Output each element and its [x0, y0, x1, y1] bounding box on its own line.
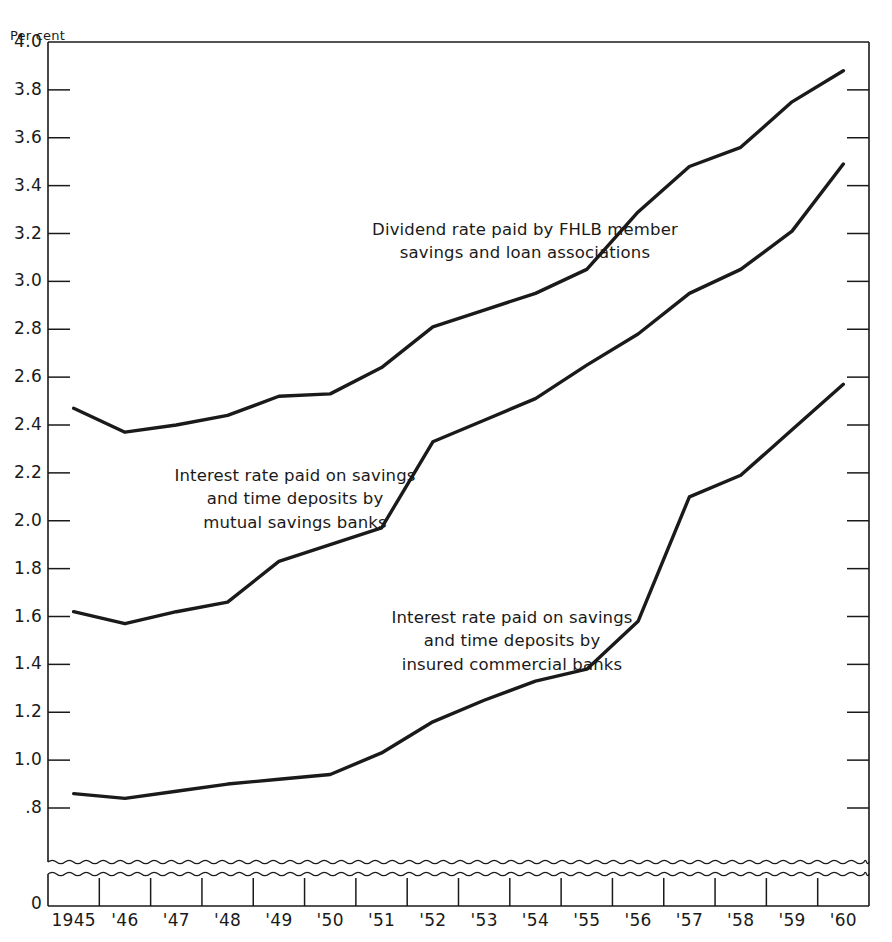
annotation-line: and time deposits by	[95, 487, 495, 510]
annotation-line: mutual savings banks	[95, 511, 495, 534]
annotation-line: Dividend rate paid by FHLB member	[325, 218, 725, 241]
axis-break-wave-bottom	[48, 872, 869, 875]
y-tick-label: 2.0	[0, 510, 42, 530]
y-tick-label: 1.4	[0, 653, 42, 673]
y-tick-label: 2.8	[0, 318, 42, 338]
y-tick-label: 1.6	[0, 606, 42, 626]
annotation-line: and time deposits by	[312, 629, 712, 652]
y-tick-label: 1.8	[0, 558, 42, 578]
axis-break-wave-top	[48, 860, 869, 863]
annotation-line: Interest rate paid on savings	[312, 606, 712, 629]
y-tick-label: 3.6	[0, 127, 42, 147]
y-tick-label: 3.8	[0, 79, 42, 99]
y-tick-label: 4.0	[0, 31, 42, 51]
annotation-line: insured commercial banks	[312, 653, 712, 676]
series-annotation-mutual-savings: Interest rate paid on savingsand time de…	[95, 464, 495, 534]
y-tick-label: 3.2	[0, 223, 42, 243]
y-tick-label: 2.4	[0, 414, 42, 434]
chart-figure: Per cent 4.03.83.63.43.23.02.82.62.42.22…	[0, 0, 892, 942]
series-annotation-fhlb: Dividend rate paid by FHLB membersavings…	[325, 218, 725, 265]
y-tick-label: 1.2	[0, 701, 42, 721]
series-annotation-commercial: Interest rate paid on savingsand time de…	[312, 606, 712, 676]
y-tick-label: .8	[0, 797, 42, 817]
y-tick-label: 2.6	[0, 366, 42, 386]
y-tick-label: 1.0	[0, 749, 42, 769]
y-tick-label: 3.0	[0, 270, 42, 290]
x-tick-label: '60	[803, 910, 883, 930]
series-line-2	[74, 384, 844, 798]
annotation-line: Interest rate paid on savings	[95, 464, 495, 487]
annotation-line: savings and loan associations	[325, 241, 725, 264]
y-tick-label: 3.4	[0, 175, 42, 195]
y-tick-label: 2.2	[0, 462, 42, 482]
